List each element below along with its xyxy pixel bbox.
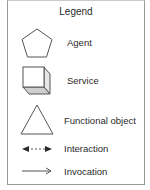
legend-label-interaction: Interaction: [64, 143, 108, 154]
pentagon-icon: [20, 27, 54, 59]
legend-label-agent: Agent: [67, 37, 92, 48]
triangle-icon: [19, 103, 55, 137]
legend-label-service: Service: [67, 75, 99, 86]
legend-title: Legend: [8, 6, 144, 17]
cube-icon: [20, 64, 54, 96]
legend-label-invocation: Invocation: [64, 166, 107, 177]
dashed-double-arrow-icon: [20, 144, 54, 154]
legend-label-functional-object: Functional object: [64, 115, 136, 126]
open-arrow-icon: [20, 166, 54, 176]
